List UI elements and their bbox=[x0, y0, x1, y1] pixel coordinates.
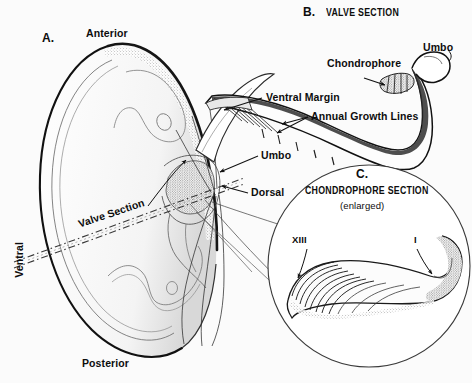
label-ring-one: I bbox=[414, 235, 417, 245]
panel-c-letter: C. bbox=[356, 168, 368, 180]
panel-c-title: CHONDROPHORE SECTION bbox=[305, 186, 429, 196]
panel-c-subtitle: (enlarged) bbox=[340, 201, 384, 211]
panel-b-letter: B. bbox=[303, 6, 315, 18]
label-ventral: Ventral bbox=[14, 242, 25, 278]
label-annual-growth-lines: Annual Growth Lines bbox=[311, 111, 418, 122]
label-chondrophore: Chondrophore bbox=[327, 58, 401, 69]
label-dorsal: Dorsal bbox=[251, 187, 284, 198]
label-ventral-margin: Ventral Margin bbox=[266, 92, 340, 103]
label-umbo-panel-b: Umbo bbox=[423, 42, 453, 53]
panel-a-whole-shell bbox=[14, 44, 274, 357]
panel-a-letter: A. bbox=[42, 32, 54, 44]
figure-canvas: A. Anterior Posterior Ventral Valve Sect… bbox=[0, 0, 472, 383]
label-posterior: Posterior bbox=[82, 358, 129, 369]
label-anterior: Anterior bbox=[86, 28, 128, 39]
label-umbo-panel-a: Umbo bbox=[261, 150, 291, 161]
label-ring-xiii: XIII bbox=[292, 235, 307, 245]
panel-b-title: VALVE SECTION bbox=[326, 8, 399, 18]
